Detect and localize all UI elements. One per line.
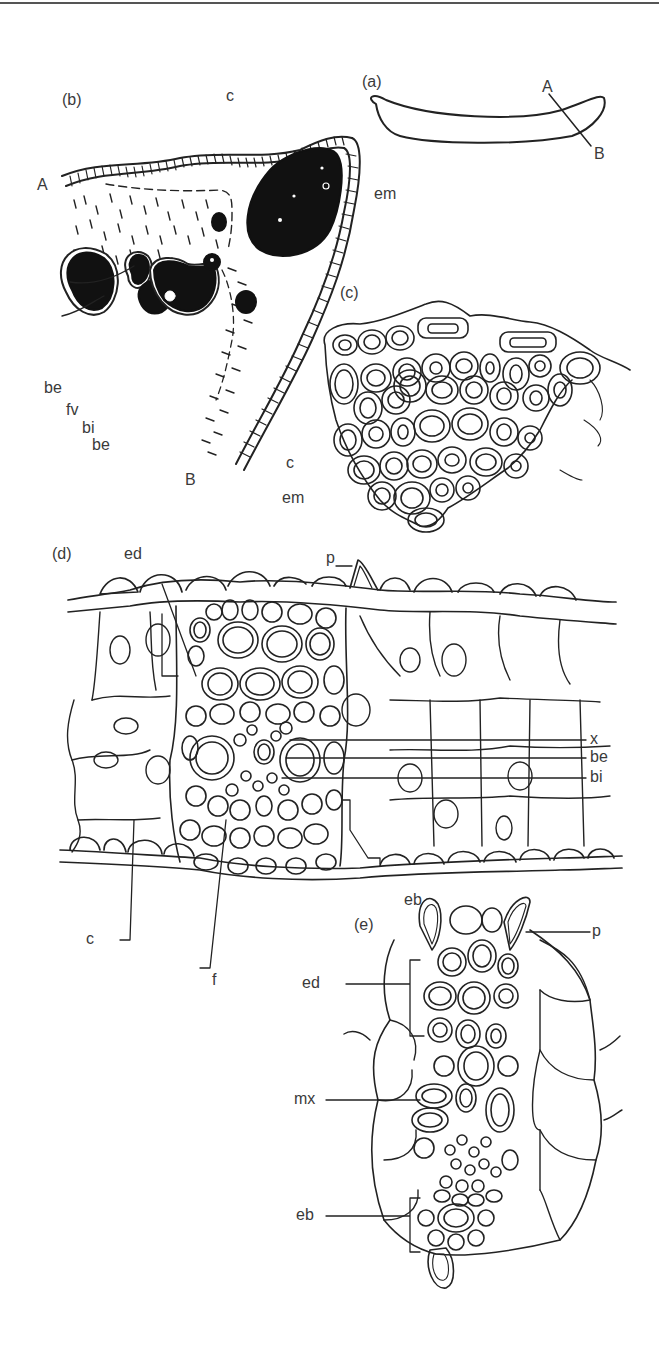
panel-d-callout-bi: bi [590,769,602,785]
anatomy-figure [0,0,659,1355]
panel-d-callout-c: c [86,931,94,947]
panel-e-callout-eb: eb [296,1207,314,1223]
panel-b-callout-be-outer: be [44,380,62,396]
panel-e-callout-p: p [592,923,601,939]
panel-b-label: (b) [62,92,82,108]
panel-d-leaf-section [60,560,622,968]
panel-d-callout-be: be [590,749,608,765]
panel-d-callout-x: x [590,731,598,747]
panel-d-callout-p: p [326,550,335,566]
panel-b-callout-em: em [374,186,396,202]
panel-e-label: (e) [354,917,374,933]
panel-c-callout-em: em [282,490,304,506]
panel-a-leaf-outline [371,94,605,146]
panel-d-label: (d) [52,546,72,562]
panel-c-cell-detail [324,301,630,532]
panel-a-marker-b: B [594,146,605,162]
panel-d-callout-eb: eb [404,892,422,908]
panel-b-marker-b: B [185,472,196,488]
panel-c-label: (c) [340,285,359,301]
panel-a-label: (a) [362,74,382,90]
panel-d-callout-ed: ed [124,546,142,562]
panel-b-marker-a: A [37,177,48,193]
panel-b-section [61,137,360,470]
panel-b-callout-c-top: c [226,88,234,104]
panel-b-callout-bi: bi [82,420,94,436]
panel-b-callout-c-bottom: c [286,455,294,471]
panel-b-callout-be-inner: be [92,437,110,453]
panel-d-callout-f: f [212,972,216,988]
panel-e-midrib [326,897,622,1288]
panel-a-marker-a: A [542,79,553,95]
panel-e-callout-mx: mx [294,1091,315,1107]
panel-b-callout-fv: fv [66,402,78,418]
panel-e-callout-ed: ed [302,975,320,991]
